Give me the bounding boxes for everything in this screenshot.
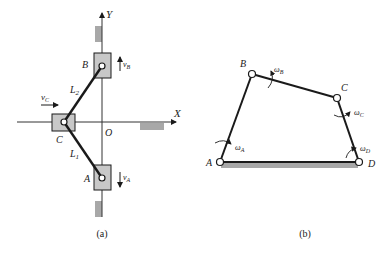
ground-top [95,26,102,42]
slider-c-label: C [56,134,63,145]
caption-b: (b) [299,228,311,240]
link-bc [252,74,337,98]
omega-c-label: ωC [354,108,365,118]
omega-d-label: ωD [360,144,371,154]
ground-ad [221,163,358,168]
pin-a [99,175,105,181]
joint-a-label: A [205,157,213,168]
joint-c [334,95,341,102]
figure-a: Y X O B A C L2 L1 vB vA vC (a) [17,8,182,240]
origin-label: O [105,127,112,138]
velocity-a-label: vA [123,173,131,183]
velocity-c-label: vC [41,92,50,103]
y-axis-label: Y [106,8,114,20]
caption-a: (a) [96,228,107,240]
pin-b [99,63,105,69]
joint-d [356,159,363,166]
velocity-b-label: vB [123,60,131,70]
figure-b: A B C D ωA ωB ωC ωD (b) [205,58,376,240]
slider-a-label: A [83,173,91,184]
joint-b-label: B [240,58,246,69]
omega-b-label: ωB [274,65,284,75]
omega-a-label: ωA [235,143,245,153]
x-axis-label: X [173,107,182,119]
pin-c [61,119,67,125]
joint-c-label: C [341,82,348,93]
diagram-canvas: Y X O B A C L2 L1 vB vA vC (a) [0,0,384,254]
joint-a [217,159,224,166]
slider-b-label: B [82,59,88,70]
link-l2-label: L2 [69,84,80,97]
joint-d-label: D [367,158,376,169]
ground-right [140,123,164,130]
ground-bottom [95,201,102,217]
link-l1-label: L1 [69,148,79,161]
joint-b [249,71,256,78]
